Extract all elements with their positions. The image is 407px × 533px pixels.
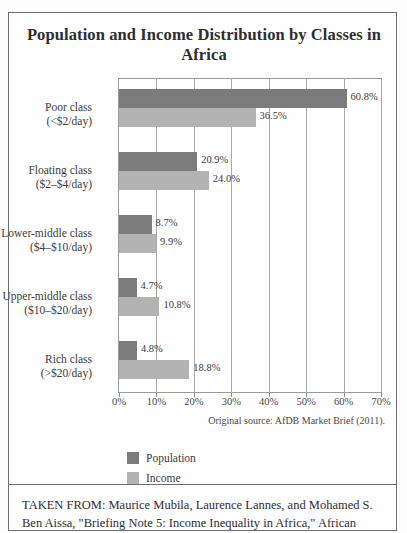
- figure-page: Population and Income Distribution by Cl…: [0, 0, 407, 533]
- bar-population: [119, 152, 197, 171]
- figure-caption: TAKEN FROM: Maurice Mubila, Laurence Lan…: [22, 496, 388, 532]
- category-label-range: ($4–$10/day): [0, 241, 92, 255]
- x-axis-tick-label: 0%: [112, 396, 126, 407]
- figure-border-box: Population and Income Distribution by Cl…: [8, 12, 397, 531]
- bar-row: 10.8%: [119, 297, 381, 316]
- category-label-name: Floating class: [28, 164, 92, 176]
- category-label-name: Lower-middle class: [1, 227, 92, 239]
- x-axis-tick-label: 30%: [222, 396, 241, 407]
- category-label: Floating class($2–$4/day): [0, 164, 92, 191]
- category-label: Rich class(>$20/day): [0, 353, 92, 380]
- bar-group: 60.8%36.5%: [119, 89, 381, 127]
- bar-row: 20.9%: [119, 152, 381, 171]
- bar-value-label: 4.7%: [141, 280, 163, 291]
- legend-item: Population: [127, 449, 196, 466]
- bar-value-label: 20.9%: [201, 154, 228, 165]
- chart-legend: PopulationIncome: [127, 449, 196, 489]
- bar-group: 8.7%9.9%: [119, 215, 381, 253]
- bar-value-label: 10.8%: [163, 299, 190, 310]
- bar-income: [119, 108, 256, 127]
- bar-value-label: 60.8%: [351, 91, 378, 102]
- legend-swatch-income: [127, 472, 139, 484]
- bar-income: [119, 360, 189, 379]
- gridline: [381, 78, 382, 393]
- bar-row: 9.9%: [119, 234, 381, 253]
- category-label-range: (<$2/day): [0, 115, 92, 129]
- bar-population: [119, 278, 137, 297]
- category-label-range: (>$20/day): [0, 367, 92, 381]
- legend-label: Population: [146, 452, 196, 464]
- bar-row: 36.5%: [119, 108, 381, 127]
- category-label-range: ($2–$4/day): [0, 178, 92, 192]
- category-label-name: Poor class: [45, 101, 92, 113]
- bar-population: [119, 341, 137, 360]
- bar-value-label: 24.0%: [213, 173, 240, 184]
- bar-group: 4.7%10.8%: [119, 278, 381, 316]
- bar-row: 4.7%: [119, 278, 381, 297]
- x-axis-tick-label: 40%: [259, 396, 278, 407]
- x-axis-tick-label: 50%: [297, 396, 316, 407]
- bar-income: [119, 234, 156, 253]
- bar-population: [119, 215, 152, 234]
- legend-swatch-population: [127, 452, 139, 464]
- bar-row: 4.8%: [119, 341, 381, 360]
- bar-value-label: 18.8%: [193, 362, 220, 373]
- x-axis-tick-label: 10%: [147, 396, 166, 407]
- x-axis-tick-label: 60%: [334, 396, 353, 407]
- bar-row: 18.8%: [119, 360, 381, 379]
- bar-income: [119, 171, 209, 190]
- source-note: Original source: AfDB Market Brief (2011…: [129, 415, 385, 426]
- category-label-name: Rich class: [45, 353, 92, 365]
- category-label: Poor class(<$2/day): [0, 101, 92, 128]
- chart-title: Population and Income Distribution by Cl…: [23, 25, 385, 65]
- category-label-range: ($10–$20/day): [0, 304, 92, 318]
- category-label: Upper-middle class($10–$20/day): [0, 290, 92, 317]
- bar-value-label: 9.9%: [160, 236, 182, 247]
- bar-group: 4.8%18.8%: [119, 341, 381, 379]
- category-label-name: Upper-middle class: [2, 290, 92, 302]
- bar-population: [119, 89, 347, 108]
- bar-row: 8.7%: [119, 215, 381, 234]
- chart-plot-area: 0%10%20%30%40%50%60%70% 60.8%36.5%20.9%2…: [118, 78, 382, 393]
- bar-value-label: 4.8%: [141, 343, 163, 354]
- x-axis-tick-label: 70%: [371, 396, 390, 407]
- legend-label: Income: [146, 472, 180, 484]
- bar-row: 60.8%: [119, 89, 381, 108]
- bar-income: [119, 297, 159, 316]
- bar-group: 20.9%24.0%: [119, 152, 381, 190]
- category-label: Lower-middle class($4–$10/day): [0, 227, 92, 254]
- x-axis-tick-label: 20%: [184, 396, 203, 407]
- bar-value-label: 36.5%: [260, 110, 287, 121]
- bar-row: 24.0%: [119, 171, 381, 190]
- bar-value-label: 8.7%: [156, 217, 178, 228]
- section-divider: [9, 484, 396, 485]
